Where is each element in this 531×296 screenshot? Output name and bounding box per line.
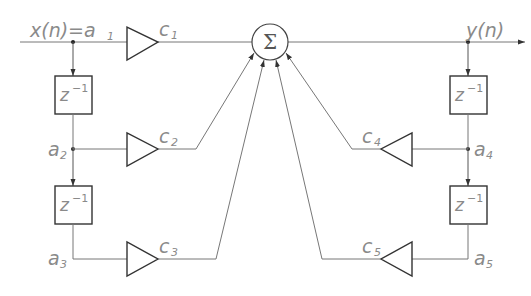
svg-text:5: 5 xyxy=(486,258,493,271)
svg-text:1: 1 xyxy=(107,30,114,43)
gain-label-c4: c 4 xyxy=(362,125,381,149)
svg-text:z: z xyxy=(59,85,70,105)
svg-text:4: 4 xyxy=(486,149,493,162)
svg-text:z: z xyxy=(454,195,465,215)
gain-c1 xyxy=(127,27,158,60)
input-label: x(n)=a 1 xyxy=(29,19,114,43)
svg-text:c: c xyxy=(159,235,170,257)
svg-text:3: 3 xyxy=(60,258,67,271)
svg-text:2: 2 xyxy=(171,136,178,149)
svg-text:x(n)=a: x(n)=a xyxy=(29,19,96,41)
svg-text:c: c xyxy=(362,235,373,257)
svg-text:a: a xyxy=(48,138,60,160)
gain-label-c2: c 2 xyxy=(159,125,178,149)
svg-text:−1: −1 xyxy=(72,192,88,205)
svg-text:c: c xyxy=(159,125,170,147)
svg-text:a: a xyxy=(474,138,486,160)
signal-flow-diagram: Σ z −1 z −1 z −1 z −1 x(n)=a 1 y(n) c 1 … xyxy=(0,0,531,296)
svg-text:z: z xyxy=(59,195,70,215)
output-label: y(n) xyxy=(465,19,504,41)
svg-text:c: c xyxy=(159,18,170,40)
gain-c4 xyxy=(381,133,412,166)
svg-text:4: 4 xyxy=(374,136,381,149)
svg-text:2: 2 xyxy=(60,149,67,162)
svg-text:−1: −1 xyxy=(72,82,88,95)
svg-text:a: a xyxy=(48,247,60,269)
svg-text:5: 5 xyxy=(374,246,381,259)
svg-text:−1: −1 xyxy=(467,82,483,95)
svg-text:−1: −1 xyxy=(467,192,483,205)
gain-label-c3: c 3 xyxy=(159,235,178,259)
svg-text:3: 3 xyxy=(171,246,178,259)
node-label-a4: a 4 xyxy=(474,138,493,162)
node-label-a3: a 3 xyxy=(48,247,67,271)
gain-c2 xyxy=(127,133,158,166)
svg-text:1: 1 xyxy=(171,29,178,42)
gain-label-c1: c 1 xyxy=(159,18,178,42)
svg-text:z: z xyxy=(454,85,465,105)
gain-c3 xyxy=(127,242,158,276)
node-label-a5: a 5 xyxy=(474,247,493,271)
svg-text:c: c xyxy=(362,125,373,147)
gain-c5 xyxy=(381,242,412,276)
gain-label-c5: c 5 xyxy=(362,235,381,259)
svg-text:a: a xyxy=(474,247,486,269)
node-label-a2: a 2 xyxy=(48,138,67,162)
sum-symbol: Σ xyxy=(263,30,277,54)
